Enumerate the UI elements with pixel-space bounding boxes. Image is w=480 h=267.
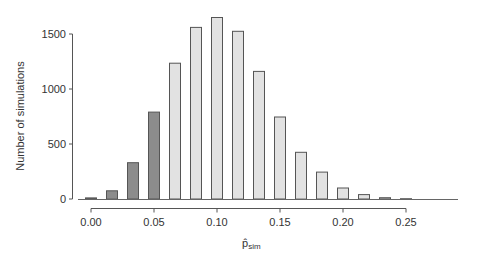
- bar: [170, 63, 181, 199]
- bar: [359, 195, 370, 199]
- x-tick-label: 0.05: [143, 216, 164, 228]
- bar: [212, 18, 223, 200]
- y-axis: 050010001500: [42, 28, 73, 205]
- x-tick-label: 0.15: [269, 216, 290, 228]
- y-tick-label: 1000: [42, 83, 66, 95]
- histogram-chart: 050010001500 0.000.050.100.150.200.25 Nu…: [0, 0, 480, 267]
- bar: [233, 31, 244, 199]
- bars: [86, 18, 412, 200]
- x-tick-label: 0.20: [332, 216, 353, 228]
- y-tick-label: 0: [60, 193, 66, 205]
- y-tick-label: 1500: [42, 28, 66, 40]
- bar-highlighted: [149, 112, 160, 199]
- bar: [191, 27, 202, 199]
- y-tick-label: 500: [48, 138, 66, 150]
- bar: [317, 172, 328, 199]
- bar-highlighted: [86, 198, 97, 199]
- bar: [380, 198, 391, 199]
- bar: [296, 152, 307, 199]
- y-axis-title: Number of simulations: [14, 61, 26, 171]
- bar: [254, 71, 265, 199]
- bar-highlighted: [107, 191, 118, 199]
- x-tick-label: 0.00: [80, 216, 101, 228]
- bar: [275, 117, 286, 199]
- x-tick-label: 0.25: [395, 216, 416, 228]
- x-axis-title: p̂sim: [242, 237, 261, 251]
- bar-highlighted: [128, 163, 139, 199]
- x-axis-title-sub: sim: [248, 242, 261, 251]
- x-tick-label: 0.10: [206, 216, 227, 228]
- bar: [338, 188, 349, 199]
- x-axis: 0.000.050.100.150.200.25: [80, 209, 416, 228]
